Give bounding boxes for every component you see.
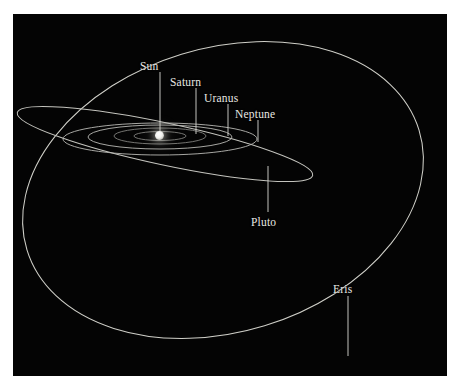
label-uranus: Uranus (204, 93, 238, 105)
label-neptune: Neptune (235, 109, 275, 121)
label-sun: Sun (140, 61, 159, 73)
eris-orbit-group (13, 14, 447, 376)
diagram-panel: Sun Saturn Uranus Neptune Pluto Eris (13, 14, 447, 376)
label-eris: Eris (333, 284, 352, 296)
figure-root: Sun Saturn Uranus Neptune Pluto Eris (0, 0, 458, 388)
sun-glyph (155, 131, 164, 140)
orbit-canvas (13, 14, 447, 376)
label-pluto: Pluto (251, 217, 276, 229)
eris-orbit-ellipse (13, 14, 447, 376)
label-saturn: Saturn (170, 77, 201, 89)
